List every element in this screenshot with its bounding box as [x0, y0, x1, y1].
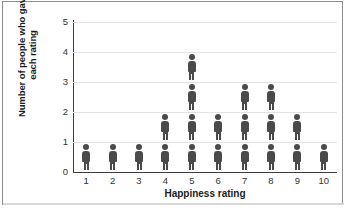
x-axis-line: [73, 172, 337, 173]
person-icon-leg-split: [323, 164, 324, 170]
pictogram-column: [74, 142, 98, 172]
person-icon: [160, 142, 170, 172]
person-icon-leg-split: [244, 164, 245, 170]
person-icon-leg-split: [191, 104, 192, 110]
gridline: [73, 82, 337, 83]
x-tick-label: 6: [206, 175, 230, 186]
person-icon: [292, 142, 302, 172]
pictogram-column: [285, 112, 309, 172]
person-icon-head: [215, 144, 221, 150]
y-tick-label: 1: [50, 137, 68, 147]
person-icon-head: [242, 144, 248, 150]
x-axis-title: Happiness rating: [73, 188, 337, 199]
person-icon: [160, 112, 170, 142]
x-tick-label: 8: [259, 175, 283, 186]
person-icon-leg-split: [165, 164, 166, 170]
person-icon-leg-split: [271, 164, 272, 170]
person-icon-head: [242, 84, 248, 90]
person-icon-leg-split: [218, 164, 219, 170]
person-icon-head: [294, 144, 300, 150]
person-icon: [266, 82, 276, 112]
person-icon: [187, 142, 197, 172]
person-icon-head: [189, 54, 195, 60]
person-icon-leg-split: [244, 134, 245, 140]
x-tick-label: 4: [153, 175, 177, 186]
person-icon-leg-split: [218, 134, 219, 140]
person-icon-head: [162, 144, 168, 150]
person-icon: [240, 142, 250, 172]
y-tick-label: 2: [50, 107, 68, 117]
person-icon-head: [136, 144, 142, 150]
person-icon: [266, 142, 276, 172]
pictogram-column: [180, 52, 204, 172]
x-tick-label: 5: [180, 175, 204, 186]
person-icon: [213, 112, 223, 142]
person-icon: [319, 142, 329, 172]
person-icon-leg-split: [297, 134, 298, 140]
person-icon-leg-split: [86, 164, 87, 170]
y-tick-label: 3: [50, 77, 68, 87]
y-tick-label: 0: [50, 167, 68, 177]
y-axis-tick-labels: 0 1 2 3 4 5: [50, 22, 68, 172]
person-icon: [266, 112, 276, 142]
person-icon: [213, 142, 223, 172]
plot-area: [73, 22, 337, 172]
person-icon: [187, 112, 197, 142]
person-icon: [81, 142, 91, 172]
person-icon-head: [294, 114, 300, 120]
person-icon: [134, 142, 144, 172]
y-axis-title-line-1: Number of people who gave: [16, 0, 27, 130]
person-icon: [292, 112, 302, 142]
person-icon-leg-split: [139, 164, 140, 170]
x-tick-label: 3: [127, 175, 151, 186]
y-axis-title: Number of people who gave each rating: [16, 0, 38, 130]
y-tick-label: 5: [50, 17, 68, 27]
y-axis-title-line-2: each rating: [27, 0, 38, 130]
person-icon-head: [189, 144, 195, 150]
pictogram-column: [312, 142, 336, 172]
person-icon-head: [189, 114, 195, 120]
person-icon: [187, 82, 197, 112]
person-icon-leg-split: [244, 104, 245, 110]
x-tick-label: 7: [233, 175, 257, 186]
person-icon-head: [268, 114, 274, 120]
gridline: [73, 52, 337, 53]
person-icon-leg-split: [191, 134, 192, 140]
person-icon-head: [321, 144, 327, 150]
pictogram-column: [259, 82, 283, 172]
person-icon-leg-split: [271, 104, 272, 110]
pictogram-column: [101, 142, 125, 172]
person-icon: [240, 82, 250, 112]
person-icon-head: [189, 84, 195, 90]
person-icon-head: [83, 144, 89, 150]
person-icon-leg-split: [191, 164, 192, 170]
person-icon-leg-split: [271, 134, 272, 140]
x-tick-label: 10: [312, 175, 336, 186]
x-tick-label: 9: [285, 175, 309, 186]
figure-frame-shadow: [3, 203, 344, 205]
person-icon-head: [242, 114, 248, 120]
pictogram-column: [153, 112, 177, 172]
pictogram-column: [206, 112, 230, 172]
person-icon-head: [110, 144, 116, 150]
x-axis-tick-labels: 12345678910: [73, 175, 337, 189]
person-icon-leg-split: [112, 164, 113, 170]
x-tick-label: 2: [101, 175, 125, 186]
person-icon: [240, 112, 250, 142]
person-icon-leg-split: [191, 74, 192, 80]
pictogram-column: [127, 142, 151, 172]
y-tick-label: 4: [50, 47, 68, 57]
pictogram-column: [233, 82, 257, 172]
person-icon-head: [215, 114, 221, 120]
x-tick-label: 1: [74, 175, 98, 186]
person-icon: [108, 142, 118, 172]
person-icon-head: [162, 114, 168, 120]
person-icon: [187, 52, 197, 82]
person-icon-leg-split: [297, 164, 298, 170]
person-icon-head: [268, 84, 274, 90]
chart-screenshot: Number of people who gave each rating 0 …: [0, 0, 348, 212]
person-icon-leg-split: [165, 134, 166, 140]
gridline: [73, 22, 337, 23]
person-icon-head: [268, 144, 274, 150]
